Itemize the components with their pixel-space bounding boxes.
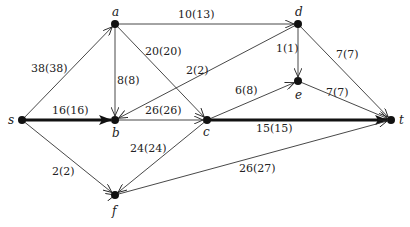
edge-label-c-e: 6(8) [235, 84, 258, 97]
edge-label-d-e: 1(1) [276, 42, 299, 55]
edge-label-b-c: 26(26) [145, 104, 182, 117]
edge-label-d-t: 7(7) [336, 48, 359, 61]
node-e [294, 77, 302, 85]
edge-label-s-f: 2(2) [52, 165, 75, 178]
edge-label-a-c: 20(20) [145, 45, 182, 58]
node-c [203, 116, 211, 124]
edge-label-d-b: 2(2) [186, 64, 209, 77]
edge-label-s-a: 38(38) [31, 62, 68, 75]
edge-c-f [118, 120, 207, 192]
edge-f-t [115, 121, 387, 195]
flow-network-diagram: 38(38)16(16)2(2)10(13)8(8)20(20)2(2)26(2… [0, 0, 410, 227]
node-a [111, 20, 119, 28]
edge-label-a-b: 8(8) [117, 74, 140, 87]
edge-label-e-t: 7(7) [326, 86, 349, 99]
edge-label-f-t: 26(27) [239, 162, 276, 175]
node-t [387, 116, 395, 124]
node-label-e: e [295, 88, 302, 102]
edge-s-f [22, 120, 112, 192]
node-s [18, 116, 26, 124]
edge-label-c-t: 15(15) [256, 122, 293, 135]
edge-label-a-d: 10(13) [178, 8, 215, 21]
node-label-t: t [399, 113, 404, 127]
node-f [111, 191, 119, 199]
node-label-a: a [112, 5, 119, 19]
node-b [111, 116, 119, 124]
edge-d-t [298, 24, 388, 117]
node-d [294, 20, 302, 28]
edge-label-c-f: 24(24) [130, 142, 167, 155]
node-label-d: d [295, 5, 303, 19]
node-label-b: b [112, 126, 120, 140]
node-label-c: c [203, 125, 210, 139]
edge-label-s-b: 16(16) [52, 104, 89, 117]
node-label-f: f [111, 204, 119, 218]
node-label-s: s [8, 113, 14, 127]
